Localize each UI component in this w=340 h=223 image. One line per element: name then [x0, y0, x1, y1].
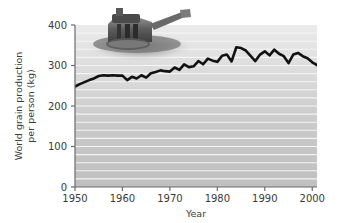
x-axis-label: Year [185, 208, 206, 219]
y-axis-label-line1: World grain production [13, 52, 24, 161]
y-tick-label: 100 [48, 141, 67, 152]
y-axis-label: World grain production per person (kg) [13, 52, 36, 161]
y-tick-label: 300 [48, 60, 67, 71]
x-tick-label: 1960 [110, 193, 135, 204]
y-tick-label: 200 [48, 101, 67, 112]
x-axis-ticks [75, 187, 312, 191]
x-tick-label: 1970 [157, 193, 182, 204]
x-tick-label: 1990 [252, 193, 277, 204]
line-chart: 0100200300400 195019601970198019902000 W… [0, 0, 340, 223]
y-tick-label: 400 [48, 20, 67, 31]
x-tick-label: 2000 [300, 193, 325, 204]
x-tick-label: 1980 [205, 193, 230, 204]
y-axis-tick-labels: 0100200300400 [48, 20, 67, 193]
x-tick-label: 1950 [62, 193, 87, 204]
chart-figure: 0100200300400 195019601970198019902000 W… [0, 0, 340, 223]
y-tick-label: 0 [61, 182, 67, 193]
x-axis-tick-labels: 195019601970198019902000 [62, 193, 325, 204]
y-axis-label-line2: per person (kg) [25, 69, 36, 142]
